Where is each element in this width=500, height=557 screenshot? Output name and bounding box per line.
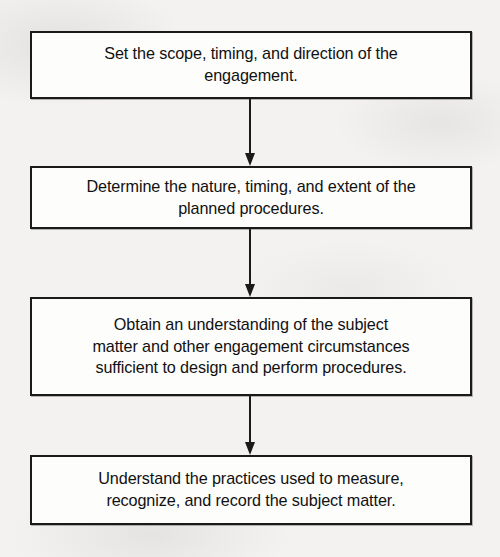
flowchart-diagram: Set the scope, timing, and direction of … (0, 0, 500, 557)
flowchart-node-step-3: Obtain an understanding of the subject m… (30, 297, 472, 396)
down-arrow-icon (245, 153, 255, 166)
connector-line (249, 99, 251, 154)
flowchart-node-step-4: Understand the practices used to measure… (30, 455, 472, 525)
connector-line (249, 229, 251, 285)
flowchart-node-step-2: Determine the nature, timing, and extent… (30, 166, 472, 229)
flowchart-node-label: Understand the practices used to measure… (32, 468, 470, 511)
down-arrow-icon (245, 284, 255, 297)
flowchart-node-label: Set the scope, timing, and direction of … (32, 43, 470, 86)
down-arrow-icon (245, 442, 255, 455)
flowchart-node-step-1: Set the scope, timing, and direction of … (30, 31, 472, 99)
flowchart-node-label: Determine the nature, timing, and extent… (32, 176, 470, 219)
flowchart-node-label: Obtain an understanding of the subject m… (32, 314, 470, 379)
connector-line (249, 396, 251, 443)
